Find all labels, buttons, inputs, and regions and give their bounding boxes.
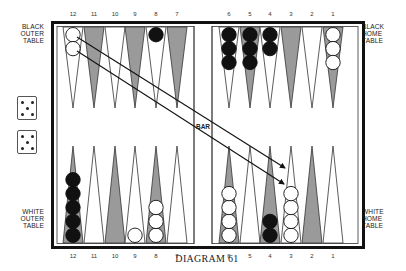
diagram-caption: DIAGRAM 61	[0, 253, 406, 264]
white-checker	[222, 228, 236, 242]
black-checker	[263, 28, 277, 42]
black-checker	[243, 41, 257, 55]
backgammon-diagram: BLACK OUTER TABLE BLACK HOME TABLE WHITE…	[0, 0, 406, 271]
top-point-number: 11	[91, 11, 98, 17]
black-checker	[263, 41, 277, 55]
black-checker	[66, 228, 80, 242]
board: BAR 121110987654321121110987654321	[0, 0, 406, 271]
white-checker	[284, 228, 298, 242]
black-checker	[66, 173, 80, 187]
white-checker	[222, 200, 236, 214]
white-checker	[66, 41, 80, 55]
white-checker	[66, 28, 80, 42]
white-checker	[284, 186, 298, 200]
white-checker	[149, 228, 163, 242]
black-checker	[66, 200, 80, 214]
top-point-number: 3	[289, 11, 293, 17]
black-checker	[66, 186, 80, 200]
white-checker	[222, 214, 236, 228]
black-checker	[243, 55, 257, 69]
top-point-number: 12	[70, 11, 77, 17]
black-checker	[222, 41, 236, 55]
black-checker	[263, 214, 277, 228]
top-point-number: 9	[133, 11, 137, 17]
top-point-number: 2	[310, 11, 314, 17]
white-checker	[326, 41, 340, 55]
top-point-number: 8	[154, 11, 158, 17]
black-checker	[222, 55, 236, 69]
top-point-number: 4	[268, 11, 272, 17]
white-checker	[326, 55, 340, 69]
top-point-number: 5	[248, 11, 252, 17]
top-point-number: 7	[175, 11, 179, 17]
black-checker	[222, 28, 236, 42]
top-point-number: 10	[112, 11, 119, 17]
white-checker	[222, 186, 236, 200]
bar-label: BAR	[196, 123, 210, 130]
white-checker	[128, 228, 142, 242]
top-point-number: 1	[331, 11, 335, 17]
caption-text: DIAGRAM 61	[175, 253, 238, 264]
top-point-number: 6	[227, 11, 231, 17]
black-checker	[66, 214, 80, 228]
black-checker	[263, 228, 277, 242]
white-checker	[149, 214, 163, 228]
black-checker	[149, 28, 163, 42]
white-checker	[149, 200, 163, 214]
black-checker	[243, 28, 257, 42]
white-checker	[284, 214, 298, 228]
white-checker	[284, 200, 298, 214]
white-checker	[326, 28, 340, 42]
